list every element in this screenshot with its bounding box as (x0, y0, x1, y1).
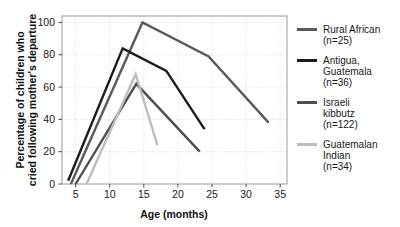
x-tick-label: 15 (138, 188, 150, 200)
y-tick-label: 20 (43, 145, 55, 157)
legend-label-1: (n=36) (323, 77, 352, 88)
y-axis-title-line2: cried following mother's departure (26, 14, 38, 186)
legend-label-2: kibbutz (323, 108, 355, 119)
x-axis-title: Age (months) (140, 208, 208, 220)
gridlines (62, 16, 287, 184)
line-chart: 5101520253035 020406080100 Rural African… (0, 0, 400, 227)
data-series-layer (68, 22, 268, 184)
legend-label-1: Antigua, (323, 55, 360, 66)
legend-label-2: (n=122) (323, 119, 358, 130)
legend-label-0: Rural African (323, 24, 380, 35)
y-tick-label: 40 (43, 113, 55, 125)
y-tick-label: 100 (37, 16, 55, 28)
chart-figure: 5101520253035 020406080100 Rural African… (0, 0, 400, 227)
x-tick-label: 20 (172, 188, 184, 200)
y-tick-label: 80 (43, 48, 55, 60)
y-tick-labels: 020406080100 (37, 16, 55, 190)
series-line-3 (87, 74, 158, 184)
x-tick-label: 30 (240, 188, 252, 200)
x-tick-labels: 5101520253035 (73, 188, 286, 200)
x-tick-label: 5 (73, 188, 79, 200)
plot-frame (62, 16, 287, 184)
legend-label-3: (n=34) (323, 161, 352, 172)
axis-ticks (59, 22, 281, 187)
y-tick-label: 0 (49, 178, 55, 190)
chart-legend: Rural African(n=25)Antigua,Guatemala(n=3… (297, 24, 380, 172)
legend-label-3: Guatemalan (323, 139, 377, 150)
y-tick-label: 60 (43, 81, 55, 93)
x-tick-label: 35 (274, 188, 286, 200)
x-tick-label: 10 (104, 188, 116, 200)
legend-label-1: Guatemala (323, 66, 372, 77)
plot-border (62, 16, 287, 184)
x-tick-label: 25 (206, 188, 218, 200)
legend-label-2: Israeli (323, 97, 350, 108)
legend-label-0: (n=25) (323, 35, 352, 46)
y-axis-title-line1: Percentage of children who (14, 31, 26, 168)
legend-label-3: Indian (323, 150, 350, 161)
